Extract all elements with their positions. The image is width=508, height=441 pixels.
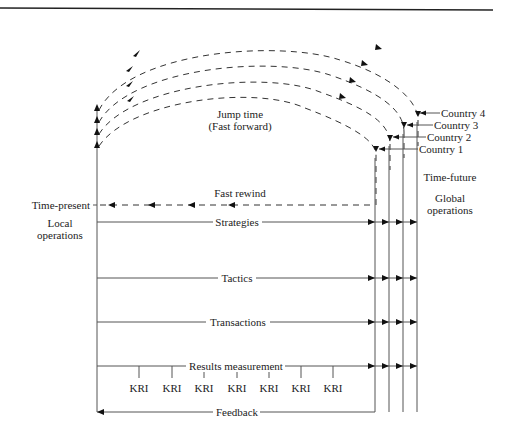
global-operations-label: operations: [427, 204, 473, 216]
local-label: Local: [47, 217, 72, 229]
diagram-canvas: Country 4 Country 3 Country 2 Country 1 …: [0, 0, 508, 441]
top-rule: [0, 8, 493, 10]
feedback-label: Feedback: [216, 406, 259, 418]
time-future-label: Time-future: [424, 171, 477, 183]
time-present-label: Time-present: [32, 199, 90, 211]
kri-label: KRI: [260, 382, 279, 394]
country-1-label: Country 1: [419, 143, 463, 155]
global-label: Global: [435, 192, 465, 204]
kri-label: KRI: [228, 382, 247, 394]
svg-text:Tactics: Tactics: [222, 272, 253, 284]
svg-text:Strategies: Strategies: [215, 216, 258, 228]
right-dash-verticals: [376, 120, 418, 205]
kri-label: KRI: [163, 382, 182, 394]
fast-forward-label: (Fast forward): [208, 120, 272, 133]
country-3-label: Country 3: [434, 119, 479, 131]
jump-time-label: Jump time: [217, 108, 263, 120]
country-4-label: Country 4: [441, 107, 486, 119]
jump-arcs: [99, 51, 418, 155]
svg-text:Results measurement: Results measurement: [189, 360, 283, 372]
country-2-label: Country 2: [427, 131, 471, 143]
kri-label: KRI: [130, 382, 149, 394]
arc-arrowheads: [126, 44, 421, 152]
feedback-loop: Feedback: [97, 406, 375, 418]
kri-label: KRI: [292, 382, 311, 394]
svg-text:Transactions: Transactions: [210, 316, 266, 328]
fast-rewind-label: Fast rewind: [214, 187, 266, 199]
kri-label: KRI: [324, 382, 343, 394]
local-operations-label: operations: [37, 229, 83, 241]
kri-label: KRI: [195, 382, 214, 394]
